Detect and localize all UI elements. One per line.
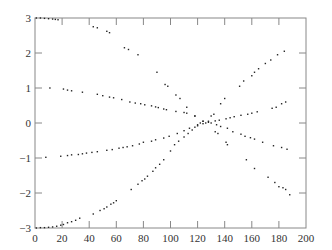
data-point: [273, 145, 274, 146]
data-point: [163, 159, 164, 160]
data-point: [183, 136, 184, 137]
x-tick-label: 140: [216, 232, 233, 244]
data-point: [71, 90, 72, 91]
data-point: [91, 152, 92, 153]
data-point: [86, 152, 87, 153]
data-point: [281, 103, 282, 104]
data-point: [197, 125, 198, 126]
data-point: [60, 225, 61, 226]
data-point: [189, 128, 190, 129]
data-point: [132, 145, 133, 146]
series-curve-descending-from-1: [49, 87, 288, 150]
data-point: [93, 213, 94, 214]
data-point: [110, 204, 111, 205]
data-point: [224, 98, 225, 99]
data-point: [52, 18, 53, 19]
data-point: [156, 72, 157, 73]
data-point: [44, 18, 45, 19]
data-point: [246, 159, 247, 160]
axes-frame: [35, 18, 306, 228]
y-tick-label: 1: [26, 82, 32, 94]
data-point: [36, 17, 37, 18]
data-point: [158, 107, 159, 108]
data-point: [129, 101, 130, 102]
data-point: [215, 131, 216, 132]
data-point: [97, 27, 98, 28]
y-tick-label: 2: [26, 47, 32, 59]
data-point: [78, 154, 79, 155]
y-tick-label: 3: [26, 12, 32, 24]
data-point: [106, 206, 107, 207]
data-point: [67, 89, 68, 90]
data-point: [155, 106, 156, 107]
data-point: [254, 168, 255, 169]
y-tick-label: −2: [19, 187, 31, 199]
data-point: [186, 113, 187, 114]
data-point: [262, 142, 263, 143]
data-point: [140, 103, 141, 104]
data-point: [141, 180, 142, 181]
data-point: [200, 122, 201, 123]
data-point: [82, 153, 83, 154]
data-point: [240, 115, 241, 116]
x-tick-label: 120: [189, 232, 206, 244]
data-point: [251, 75, 252, 76]
data-point: [113, 202, 114, 203]
data-point: [232, 131, 233, 132]
data-point: [40, 17, 41, 18]
data-point: [289, 194, 290, 195]
y-tick-label: 0: [26, 117, 32, 129]
data-point: [121, 99, 122, 100]
data-point: [178, 141, 179, 142]
x-tick-label: 100: [162, 232, 179, 244]
data-point: [210, 115, 211, 116]
data-point: [239, 86, 240, 87]
data-point: [194, 127, 195, 128]
data-point: [97, 151, 98, 152]
data-point: [244, 136, 245, 137]
data-point: [175, 111, 176, 112]
data-point: [63, 224, 64, 225]
data-point: [106, 150, 107, 151]
data-point: [103, 208, 104, 209]
plot-area: [35, 17, 306, 228]
data-point: [183, 130, 184, 131]
data-point: [281, 147, 282, 148]
x-tick-label: 160: [244, 232, 261, 244]
data-point: [60, 156, 61, 157]
data-point: [67, 155, 68, 156]
data-point: [135, 102, 136, 103]
data-point: [57, 19, 58, 20]
data-point: [112, 149, 113, 150]
data-point: [271, 108, 272, 109]
data-point: [67, 222, 68, 223]
data-point: [186, 107, 187, 108]
data-point: [274, 182, 275, 183]
x-tick-label: 60: [111, 232, 123, 244]
data-point: [220, 126, 221, 127]
data-point: [208, 122, 209, 123]
data-point: [137, 54, 138, 55]
data-point: [151, 105, 152, 106]
data-point: [267, 177, 268, 178]
data-point: [152, 171, 153, 172]
data-point: [282, 187, 283, 188]
data-point: [278, 186, 279, 187]
data-point: [187, 133, 188, 134]
data-point: [250, 137, 251, 138]
data-point: [75, 220, 76, 221]
data-point: [122, 147, 123, 148]
data-point: [45, 157, 46, 158]
data-point: [109, 96, 110, 97]
data-point: [229, 117, 230, 118]
data-point: [166, 109, 167, 110]
data-point: [128, 49, 129, 50]
data-point: [254, 72, 255, 73]
data-point: [79, 218, 80, 219]
data-point: [163, 108, 164, 109]
data-point: [202, 123, 203, 124]
x-tick-label: 200: [298, 232, 315, 244]
data-point: [216, 124, 217, 125]
data-point: [118, 148, 119, 149]
data-point: [277, 54, 278, 55]
